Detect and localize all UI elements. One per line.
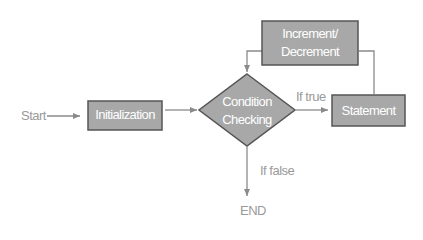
arrow-statement-to-increment (359, 51, 374, 94)
increment-line1: Increment/ (262, 25, 358, 43)
start-label: Start (21, 108, 46, 123)
increment-line2: Decrement (262, 43, 358, 61)
statement-label: Statement (332, 102, 405, 120)
condition-label: Condition Checking (205, 93, 289, 129)
condition-line2: Checking (205, 111, 289, 129)
increment-label: Increment/ Decrement (262, 25, 358, 61)
if-true-label: If true (296, 89, 326, 104)
initialization-label: Initialization (88, 106, 162, 124)
condition-line1: Condition (205, 93, 289, 111)
end-label: END (240, 203, 266, 218)
arrow-increment-to-condition (247, 51, 262, 72)
if-false-label: If false (260, 163, 294, 178)
